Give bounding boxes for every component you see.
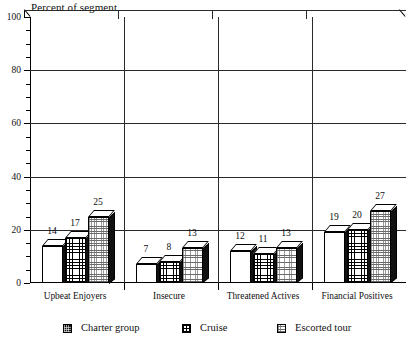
x-axis-category-label: Threatened Actives	[227, 291, 300, 302]
bar-value-label: 11	[258, 234, 267, 244]
bar-threatened-actives-escorted-tour: 13	[276, 248, 297, 283]
bar-front-face	[182, 248, 203, 283]
bar-front-face	[253, 254, 274, 283]
legend-label: Escorted tour	[295, 322, 351, 334]
gridline-y-100	[24, 10, 406, 11]
x-axis-category-label: Upbeat Enjoyers	[44, 291, 107, 302]
bar-value-label: 8	[167, 242, 172, 252]
y-axis-label-60: 60	[12, 119, 22, 128]
gridline-x-2	[218, 17, 219, 283]
y-axis-label-40: 40	[12, 172, 22, 181]
x-axis-category-label: Insecure	[153, 291, 185, 302]
legend-swatch-icon	[63, 324, 72, 333]
plot-area: 1417257813121113192027	[30, 17, 406, 283]
bar-value-label: 19	[329, 212, 339, 222]
bar-value-label: 13	[187, 228, 197, 238]
bar-financial-positives-cruise: 20	[347, 230, 368, 283]
y-axis: 020406080100	[0, 17, 30, 284]
bar-side-face	[109, 211, 115, 283]
bar-financial-positives-charter-group: 19	[324, 232, 345, 283]
bar-front-face	[65, 238, 86, 283]
legend-label: Cruise	[200, 322, 227, 334]
bar-side-face	[203, 243, 209, 283]
gridline-x-depth-2	[212, 10, 213, 19]
bar-front-face	[276, 248, 297, 283]
gridline-x-depth-1	[118, 10, 119, 19]
bar-value-label: 13	[281, 228, 291, 238]
x-axis-category-label: Financial Positives	[321, 291, 392, 302]
legend-item-cruise[interactable]: Cruise	[182, 322, 227, 334]
gridline-x-3	[312, 17, 313, 283]
bar-side-face	[391, 206, 397, 283]
x-tick-1	[124, 283, 125, 290]
chart-legend: Charter groupCruiseEscorted tour	[0, 322, 414, 344]
bar-front-face	[347, 230, 368, 283]
bar-insecure-cruise: 8	[159, 262, 180, 283]
bar-value-label: 17	[70, 218, 80, 228]
bar-value-label: 14	[47, 226, 57, 236]
bar-value-label: 7	[144, 244, 149, 254]
bar-front-face	[136, 264, 157, 283]
bar-value-label: 27	[375, 191, 385, 201]
y-axis-label-20: 20	[12, 225, 22, 234]
bar-value-label: 25	[93, 197, 103, 207]
y-axis-label-100: 100	[7, 13, 21, 22]
legend-swatch-icon	[277, 324, 286, 333]
bar-front-face	[159, 262, 180, 283]
gridline-x-1	[124, 17, 125, 283]
gridline-x-depth-3	[306, 10, 307, 19]
bar-threatened-actives-charter-group: 12	[230, 251, 251, 283]
bar-side-face	[297, 243, 303, 283]
y-tick-0	[24, 283, 30, 284]
bar-front-face	[88, 217, 109, 284]
bar-insecure-charter-group: 7	[136, 264, 157, 283]
bar-front-face	[370, 211, 391, 283]
bar-value-label: 12	[235, 231, 245, 241]
bar-front-face	[324, 232, 345, 283]
y-axis-label-80: 80	[12, 66, 22, 75]
bar-value-label: 20	[352, 210, 362, 220]
legend-label: Charter group	[81, 322, 140, 334]
bar-threatened-actives-cruise: 11	[253, 254, 274, 283]
bar-upbeat-enjoyers-escorted-tour: 25	[88, 217, 109, 284]
legend-item-charter-group[interactable]: Charter group	[63, 322, 140, 334]
bar-financial-positives-escorted-tour: 27	[370, 211, 391, 283]
x-tick-2	[218, 283, 219, 290]
legend-swatch-icon	[182, 324, 191, 333]
bar-front-face	[230, 251, 251, 283]
bar-insecure-escorted-tour: 13	[182, 248, 203, 283]
bar-upbeat-enjoyers-cruise: 17	[65, 238, 86, 283]
bar-upbeat-enjoyers-charter-group: 14	[42, 246, 63, 283]
bar-front-face	[42, 246, 63, 283]
legend-item-escorted-tour[interactable]: Escorted tour	[277, 322, 351, 334]
y-axis-label-0: 0	[16, 279, 21, 288]
x-tick-3	[312, 283, 313, 290]
